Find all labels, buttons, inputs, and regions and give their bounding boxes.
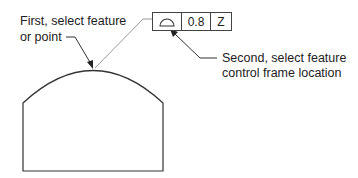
feature-control-frame: 0.8 Z — [152, 12, 232, 31]
profile-of-surface-icon — [153, 13, 182, 30]
second-callout-line1: Second, select feature — [222, 51, 346, 66]
tolerance-value: 0.8 — [182, 13, 211, 30]
part-outline — [23, 71, 163, 172]
first-callout-line1: First, select feature — [20, 14, 126, 29]
datum-reference: Z — [211, 13, 231, 30]
first-leader — [66, 37, 91, 64]
second-callout-line2: control frame location — [222, 66, 342, 81]
second-leader — [175, 34, 217, 58]
first-arrowhead — [87, 60, 93, 69]
first-callout-line2: or point — [20, 30, 62, 45]
